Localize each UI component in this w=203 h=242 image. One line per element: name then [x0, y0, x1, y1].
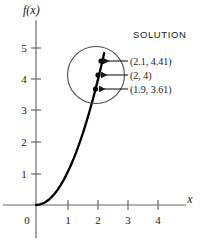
graph-figure: f(x) x 1 2 3 4 5 0 1 2 3 4 (2.1, 4.41) — [0, 0, 203, 242]
y-tick-label-2: 2 — [21, 136, 27, 148]
data-point-marker — [98, 58, 103, 63]
callout-leader-lines — [99, 61, 128, 89]
y-tick-label-3: 3 — [21, 104, 27, 116]
x-tick-label-4: 4 — [155, 214, 161, 226]
x-tick-label-1: 1 — [65, 214, 71, 226]
y-tick-label-1: 1 — [21, 168, 27, 180]
function-curve — [36, 53, 104, 205]
y-tick-label-4: 4 — [21, 73, 27, 85]
data-point-marker — [95, 72, 100, 77]
data-point-label-3: (1.9, 3.61) — [130, 84, 172, 96]
data-point-marker — [93, 86, 98, 91]
y-tick-label-5: 5 — [21, 42, 27, 54]
x-axis-label: x — [186, 192, 193, 206]
x-tick-label-3: 3 — [125, 214, 131, 226]
x-tick-label-2: 2 — [95, 214, 101, 226]
data-point-label-1: (2.1, 4.41) — [130, 56, 172, 68]
data-point-label-2: (2, 4) — [130, 70, 152, 82]
plot-canvas: f(x) x 1 2 3 4 5 0 1 2 3 4 (2.1, 4.41) — [0, 0, 203, 242]
y-axis-label: f(x) — [23, 3, 40, 17]
solution-heading: SOLUTION — [133, 29, 186, 40]
x-tick-label-0: 0 — [24, 214, 30, 226]
